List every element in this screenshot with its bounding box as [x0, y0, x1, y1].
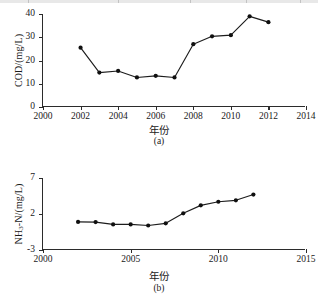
data-point [234, 198, 238, 202]
y-tick-label: 2 [30, 209, 35, 219]
data-point [129, 222, 133, 226]
data-point [97, 70, 101, 74]
x-tick-mark [43, 106, 44, 110]
data-point [216, 200, 220, 204]
data-point [135, 75, 139, 79]
chart-panel-a: COD/(mg/L) 01020304020002002200420062008… [0, 0, 318, 148]
x-tick-label: 2015 [297, 255, 316, 265]
data-point [164, 221, 168, 225]
data-point [199, 203, 203, 207]
panel-caption-a: (a) [0, 136, 318, 146]
panel-caption-b: (b) [0, 283, 318, 293]
plot-area-b: -3272000200520102015 [42, 178, 305, 250]
data-point [172, 75, 176, 79]
data-point [181, 211, 185, 215]
x-tick-mark [81, 106, 82, 110]
data-point [78, 46, 82, 50]
data-point [76, 220, 80, 224]
x-tick-mark [231, 106, 232, 110]
y-tick-label: 30 [26, 33, 36, 43]
x-tick-label: 2012 [259, 112, 278, 122]
series-line-nh3n [78, 195, 253, 226]
x-tick-label: 2010 [221, 112, 240, 122]
x-tick-label: 2002 [71, 112, 90, 122]
series-svg-b [43, 178, 306, 250]
y-axis-title-b: NH3-N/(mg/L) [13, 184, 25, 245]
x-axis-title-a: 年份 [0, 122, 318, 137]
y-tick-mark [39, 178, 43, 179]
data-point [210, 34, 214, 38]
x-tick-mark [43, 249, 44, 253]
x-tick-mark [193, 106, 194, 110]
x-tick-mark [131, 249, 132, 253]
data-point [116, 69, 120, 73]
x-tick-mark [268, 106, 269, 110]
series-line-cod [81, 16, 269, 77]
data-point [248, 14, 252, 18]
data-point [266, 20, 270, 24]
x-tick-label: 2008 [184, 112, 203, 122]
plot-area-a: 0102030402000200220042006200820102012201… [42, 14, 305, 107]
x-tick-mark [218, 249, 219, 253]
y-tick-mark [39, 61, 43, 62]
y-tick-label: 20 [26, 56, 36, 66]
y-axis-title-a: COD/(mg/L) [13, 34, 24, 87]
data-point [111, 222, 115, 226]
data-point [229, 33, 233, 37]
x-tick-label: 2010 [209, 255, 228, 265]
x-tick-mark [156, 106, 157, 110]
data-point [251, 192, 255, 196]
y-tick-mark [39, 14, 43, 15]
x-tick-mark [306, 249, 307, 253]
data-point [146, 223, 150, 227]
series-svg-a [43, 14, 306, 107]
y-tick-mark [39, 37, 43, 38]
data-point [94, 220, 98, 224]
x-tick-mark [118, 106, 119, 110]
series-markers-nh3n [76, 192, 256, 227]
x-tick-label: 2005 [121, 255, 140, 265]
x-axis-title-b: 年份 [0, 268, 318, 283]
x-tick-label: 2006 [146, 112, 165, 122]
figure-page: COD/(mg/L) 01020304020002002200420062008… [0, 0, 318, 298]
chart-panel-b: NH3-N/(mg/L) -3272000200520102015 年份 (b) [0, 150, 318, 298]
y-tick-label: 7 [30, 173, 35, 183]
x-tick-label: 2014 [297, 112, 316, 122]
data-point [154, 74, 158, 78]
y-tick-mark [39, 214, 43, 215]
y-tick-label: 10 [26, 79, 36, 89]
data-point [191, 42, 195, 46]
x-tick-label: 2004 [109, 112, 128, 122]
x-tick-label: 2000 [34, 255, 53, 265]
x-tick-mark [306, 106, 307, 110]
y-tick-label: 40 [26, 9, 36, 19]
x-tick-label: 2000 [34, 112, 53, 122]
y-tick-mark [39, 84, 43, 85]
